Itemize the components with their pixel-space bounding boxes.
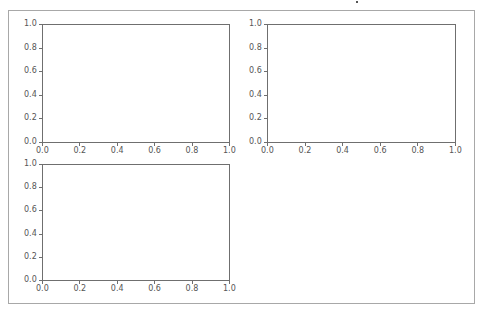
y-tick-mark [264, 24, 267, 25]
y-tick-mark [264, 95, 267, 96]
y-tick-mark [39, 24, 42, 25]
y-tick-label: 0.8 [24, 183, 37, 191]
x-tick-label: 0.2 [73, 285, 86, 293]
y-tick-label: 1.0 [24, 20, 37, 28]
y-tick-mark [264, 142, 267, 143]
x-tick-label: 0.6 [148, 285, 161, 293]
x-tick-label: 0.2 [73, 147, 86, 155]
x-tick-label: 1.0 [449, 147, 462, 155]
y-tick-label: 0.6 [24, 67, 37, 75]
y-tick-label: 1.0 [249, 20, 262, 28]
x-tick-label: 0.6 [148, 147, 161, 155]
x-tick-label: 0.4 [111, 285, 124, 293]
y-tick-label: 0.2 [24, 253, 37, 261]
y-tick-label: 0.2 [24, 114, 37, 122]
y-tick-mark [39, 48, 42, 49]
y-tick-label: 0.0 [24, 138, 37, 146]
subplot-top-left [42, 24, 230, 143]
y-tick-mark [264, 48, 267, 49]
y-tick-label: 0.6 [24, 206, 37, 214]
y-tick-mark [39, 142, 42, 143]
x-tick-label: 0.8 [411, 147, 424, 155]
y-tick-mark [39, 280, 42, 281]
x-tick-label: 1.0 [223, 285, 236, 293]
subplot-top-right [267, 24, 456, 143]
stray-dot [356, 1, 358, 3]
x-tick-label: 0.0 [36, 285, 49, 293]
y-tick-label: 0.4 [24, 230, 37, 238]
y-tick-label: 0.0 [249, 138, 262, 146]
x-tick-label: 1.0 [223, 147, 236, 155]
x-tick-label: 0.4 [111, 147, 124, 155]
x-tick-label: 0.4 [336, 147, 349, 155]
y-tick-mark [264, 118, 267, 119]
figure-canvas: 0.00.20.40.60.81.00.00.20.40.60.81.00.00… [8, 10, 475, 304]
y-tick-mark [39, 71, 42, 72]
y-tick-mark [39, 118, 42, 119]
x-tick-label: 0.8 [186, 147, 199, 155]
x-tick-label: 0.0 [261, 147, 274, 155]
y-tick-label: 0.8 [249, 44, 262, 52]
y-tick-label: 0.2 [249, 114, 262, 122]
y-tick-mark [39, 210, 42, 211]
subplot-bottom-left [42, 164, 230, 281]
y-tick-mark [39, 257, 42, 258]
y-tick-mark [39, 95, 42, 96]
x-tick-label: 0.2 [299, 147, 312, 155]
y-tick-label: 0.6 [249, 67, 262, 75]
y-tick-label: 0.0 [24, 276, 37, 284]
y-tick-mark [39, 234, 42, 235]
x-tick-label: 0.0 [36, 147, 49, 155]
y-tick-mark [39, 187, 42, 188]
y-tick-label: 0.4 [24, 91, 37, 99]
x-tick-label: 0.6 [374, 147, 387, 155]
y-tick-label: 0.8 [24, 44, 37, 52]
y-tick-label: 0.4 [249, 91, 262, 99]
y-tick-mark [39, 164, 42, 165]
y-tick-mark [264, 71, 267, 72]
x-tick-label: 0.8 [186, 285, 199, 293]
y-tick-label: 1.0 [24, 160, 37, 168]
